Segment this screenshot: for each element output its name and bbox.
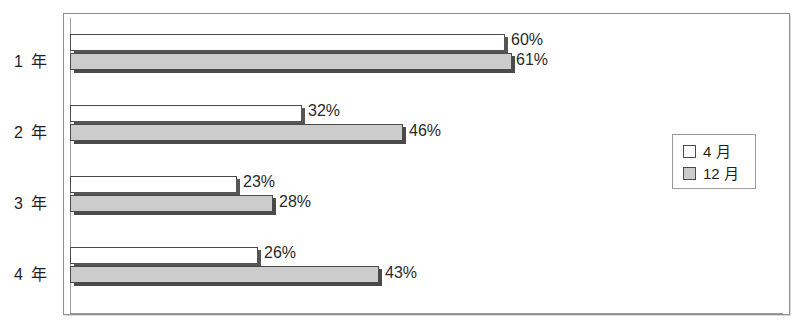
bar-cap-bottom <box>74 140 405 144</box>
bar-year1-december <box>70 53 512 70</box>
x-axis-line <box>70 313 783 314</box>
bar-cap-bottom <box>74 69 514 73</box>
category-label-1: 1 年 <box>14 48 66 72</box>
value-label-year4-april: 26% <box>264 244 296 262</box>
gray-square-swatch-icon <box>683 167 696 180</box>
bar-chart: 1 年 2 年 3 年 4 年 60% 61% 32% 46% 23% 28% … <box>0 0 808 332</box>
value-label-year2-december: 46% <box>409 122 441 140</box>
value-label-year3-april: 23% <box>243 173 275 191</box>
white-square-swatch-icon <box>683 145 696 158</box>
value-label-year3-december: 28% <box>279 193 311 211</box>
legend-item-april: 4 月 <box>683 140 755 162</box>
value-label-year1-april: 60% <box>511 31 543 49</box>
bar-cap-bottom <box>74 211 275 215</box>
bar-year2-december <box>70 124 403 141</box>
legend-label-april: 4 月 <box>703 144 731 159</box>
bar-year1-april <box>70 34 505 51</box>
category-label-4: 4 年 <box>14 261 66 285</box>
bar-year3-december <box>70 195 273 212</box>
bar-year4-december <box>70 266 379 283</box>
category-label-2: 2 年 <box>14 119 66 143</box>
bar-year4-april <box>70 247 258 264</box>
category-label-3: 3 年 <box>14 190 66 214</box>
bar-year3-april <box>70 176 237 193</box>
bar-year2-april <box>70 105 302 122</box>
legend-label-december: 12 月 <box>703 166 739 181</box>
legend-item-december: 12 月 <box>683 162 755 184</box>
chart-legend: 4 月 12 月 <box>672 134 756 189</box>
value-label-year4-december: 43% <box>385 264 417 282</box>
value-label-year2-april: 32% <box>308 102 340 120</box>
bar-cap-bottom <box>74 282 381 286</box>
value-label-year1-december: 61% <box>516 51 548 69</box>
